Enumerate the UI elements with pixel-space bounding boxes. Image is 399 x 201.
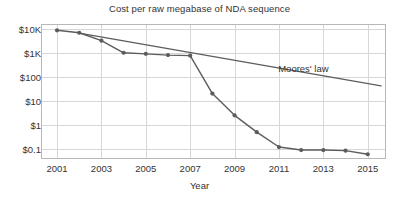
- x-tick-label: 2015: [348, 163, 388, 174]
- x-axis-title: Year: [0, 180, 399, 191]
- x-tick-label: 2007: [170, 163, 210, 174]
- x-axis-ticks: 20012003200520072009201120132015: [0, 0, 399, 201]
- moores-law-annotation: Moores' law: [278, 63, 328, 74]
- x-tick-label: 2011: [259, 163, 299, 174]
- x-tick-label: 2005: [126, 163, 166, 174]
- chart-container: Cost per raw megabase of NDA sequence $1…: [0, 0, 399, 201]
- x-tick-label: 2009: [215, 163, 255, 174]
- x-tick-label: 2003: [81, 163, 121, 174]
- x-tick-label: 2013: [303, 163, 343, 174]
- x-tick-label: 2001: [37, 163, 77, 174]
